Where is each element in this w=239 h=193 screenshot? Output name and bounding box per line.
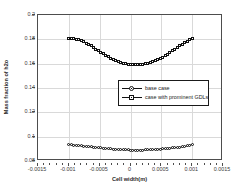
x-axis-minor-tick-mark [123,163,124,165]
legend-label-base-case: base case [145,85,170,92]
x-axis-minor-tick-mark [179,163,180,165]
x-axis-minor-tick-mark [148,163,149,165]
x-axis-ticks: -0.0015-0.001-0.000500.00050.0010.0015 [37,162,222,174]
x-axis-minor-tick-mark [49,163,50,165]
x-axis-tick-label: 0.0005 [152,166,169,173]
y-axis-tick-mark [32,63,35,64]
x-axis-minor-tick-mark [191,163,192,165]
x-axis-minor-tick-mark [154,163,155,165]
x-axis-minor-tick-mark [105,163,106,165]
y-axis-tick-mark [32,136,35,137]
x-axis-title: Cell width(m) [37,176,222,182]
y-axis-tick-mark [32,160,35,161]
x-axis-minor-tick-mark [204,163,205,165]
legend-item-base-case[interactable]: base case [122,84,204,93]
x-axis-minor-tick-mark [160,163,161,165]
x-axis-minor-tick-mark [37,163,38,165]
legend-item-prominent-gdls[interactable]: case with prominent GDLs [122,93,204,102]
x-axis-minor-tick-mark [142,163,143,165]
y-axis-tick-mark [32,111,35,112]
x-axis-minor-tick-mark [86,163,87,165]
y-axis-tick-mark [32,14,35,15]
x-axis-tick-label: -0.001 [60,166,75,173]
x-axis-tick-label: -0.0005 [90,166,108,173]
x-axis-minor-tick-mark [62,163,63,165]
x-axis-minor-tick-mark [74,163,75,165]
y-axis-title: Mass fraction of h2o [3,60,9,114]
x-axis-minor-tick-mark [80,163,81,165]
x-axis-minor-tick-mark [222,163,223,165]
plot-area: base case case with prominent GDLs [37,14,222,160]
x-axis-tick-label: 0 [128,166,131,173]
legend[interactable]: base case case with prominent GDLs [118,80,209,106]
x-axis-minor-tick-mark [210,163,211,165]
x-axis-minor-tick-mark [43,163,44,165]
x-axis-minor-tick-mark [216,163,217,165]
y-axis-tick-mark [32,38,35,39]
legend-marker-circle-icon [122,85,142,92]
x-axis-minor-tick-mark [185,163,186,165]
x-axis-minor-tick-mark [136,163,137,165]
x-axis-minor-tick-mark [167,163,168,165]
chart-container: 0.080.10.120.140.160.180.2 Mass fraction… [0,0,239,193]
x-axis-tick-label: 0.0015 [214,166,231,173]
x-axis-minor-tick-mark [93,163,94,165]
x-axis-minor-tick-mark [197,163,198,165]
legend-marker-square-icon [122,94,142,101]
y-axis-title-wrap: Mass fraction of h2o [0,14,12,160]
x-axis-minor-tick-mark [117,163,118,165]
y-axis-tick-mark [32,87,35,88]
data-point-marker [191,37,194,40]
x-axis-minor-tick-mark [111,163,112,165]
x-axis-minor-tick-mark [173,163,174,165]
x-axis-minor-tick-mark [130,163,131,165]
legend-label-prominent-gdls: case with prominent GDLs [145,94,208,101]
x-axis-minor-tick-mark [56,163,57,165]
x-axis-tick-label: 0.001 [184,166,198,173]
x-axis-minor-tick-mark [68,163,69,165]
x-axis-minor-tick-mark [99,163,100,165]
x-axis-tick-label: -0.0015 [28,166,46,173]
